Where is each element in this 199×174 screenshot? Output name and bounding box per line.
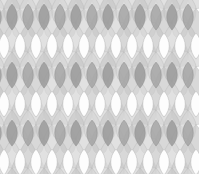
pattern-svg — [0, 0, 199, 174]
pattern-canvas — [0, 0, 199, 174]
